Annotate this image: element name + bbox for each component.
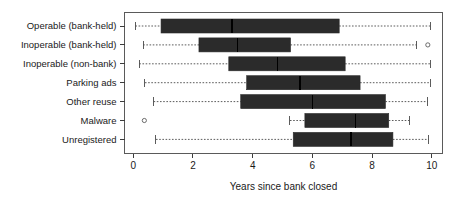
boxes-group xyxy=(135,19,430,146)
y-tick-label: Other reuse xyxy=(66,96,116,107)
box-iqr xyxy=(241,95,386,109)
boxplot-row xyxy=(139,57,430,71)
box-iqr xyxy=(199,38,291,52)
box-iqr xyxy=(229,57,345,71)
x-tick-label: 0 xyxy=(131,160,137,171)
box-iqr xyxy=(293,132,393,146)
y-tick-label: Operable (bank-held) xyxy=(27,20,117,31)
box-iqr xyxy=(247,76,360,90)
boxplot-row xyxy=(154,95,428,109)
y-tick-label: Inoperable (bank-held) xyxy=(21,39,117,50)
x-tick-label: 4 xyxy=(250,160,256,171)
y-tick-label: Parking ads xyxy=(66,77,116,88)
boxplot-canvas: Operable (bank-held)Inoperable (bank-hel… xyxy=(0,0,455,201)
box-iqr xyxy=(305,114,389,128)
outlier-point xyxy=(426,43,430,47)
y-tick-label: Inoperable (non-bank) xyxy=(23,58,116,69)
boxplot-row xyxy=(142,114,409,128)
x-tick-label: 6 xyxy=(310,160,316,171)
y-axis-labels-group: Operable (bank-held)Inoperable (bank-hel… xyxy=(21,20,117,144)
y-tick-label: Malware xyxy=(81,115,117,126)
x-axis-labels-group: 0246810 xyxy=(131,160,438,171)
boxplot-figure: Operable (bank-held)Inoperable (bank-hel… xyxy=(0,0,455,201)
boxplot-row xyxy=(143,38,430,52)
boxplot-row xyxy=(156,132,429,146)
x-tick-label: 8 xyxy=(369,160,375,171)
box-iqr xyxy=(161,19,339,33)
outlier-point xyxy=(142,118,146,122)
x-axis-title: Years since bank closed xyxy=(230,181,337,192)
x-tick-label: 10 xyxy=(426,160,438,171)
y-tick-label: Unregistered xyxy=(62,134,116,145)
boxplot-row xyxy=(145,76,430,90)
boxplot-row xyxy=(135,19,430,33)
x-tick-label: 2 xyxy=(190,160,196,171)
